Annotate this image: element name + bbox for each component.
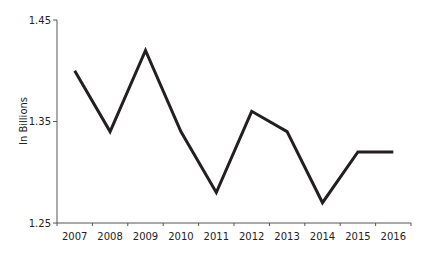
- y-tick-label: 1.35: [29, 116, 51, 127]
- line-chart: 1.251.351.45 200720082009201020112012201…: [0, 0, 428, 255]
- y-axis-label: In Billions: [18, 97, 29, 145]
- x-tick-label: 2016: [381, 231, 406, 242]
- y-axis-ticks: 1.251.351.45: [29, 15, 57, 229]
- x-tick-label: 2007: [62, 231, 87, 242]
- x-tick-label: 2009: [133, 231, 158, 242]
- x-tick-label: 2014: [310, 231, 335, 242]
- x-tick-label: 2008: [97, 231, 122, 242]
- y-tick-label: 1.25: [29, 218, 51, 229]
- x-tick-label: 2011: [204, 231, 229, 242]
- x-axis-ticks: 2007200820092010201120122013201420152016: [57, 223, 411, 242]
- x-tick-label: 2010: [168, 231, 193, 242]
- y-tick-label: 1.45: [29, 15, 51, 26]
- series-line: [75, 51, 394, 203]
- x-tick-label: 2015: [345, 231, 370, 242]
- x-tick-label: 2012: [239, 231, 264, 242]
- x-tick-label: 2013: [274, 231, 299, 242]
